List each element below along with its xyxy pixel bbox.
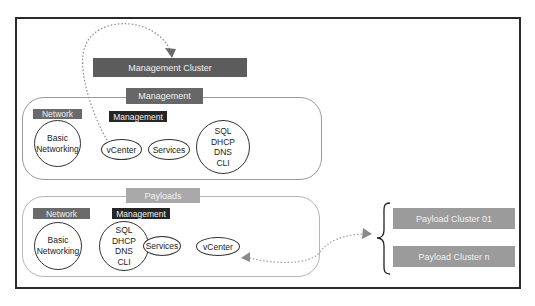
management-group-title: Management <box>126 88 203 104</box>
management-infra-services-node: SQL DHCP DNS CLI <box>196 120 250 174</box>
management-basic-networking-node: Basic Networking <box>34 120 81 167</box>
payloads-network-label: Network <box>33 208 90 219</box>
payloads-vcenter-node: vCenter <box>196 237 240 256</box>
payload-cluster-01-box: Payload Cluster 01 <box>393 208 515 229</box>
management-network-label: Network <box>33 109 82 119</box>
payloads-management-label: Management <box>112 208 170 219</box>
payloads-basic-networking-node: Basic Networking <box>34 222 82 270</box>
payload-cluster-n-box: Payload Cluster n <box>393 246 515 267</box>
payloads-group-title: Payloads <box>126 188 200 203</box>
management-cluster-box: Management Cluster <box>93 58 247 77</box>
management-vcenter-node: vCenter <box>101 139 142 160</box>
payloads-services-node: Services <box>143 236 181 256</box>
management-services-node: Services <box>148 139 190 160</box>
management-management-label: Management <box>109 111 167 122</box>
payloads-infra-services-node: SQL DHCP DNS CLI <box>99 221 149 271</box>
